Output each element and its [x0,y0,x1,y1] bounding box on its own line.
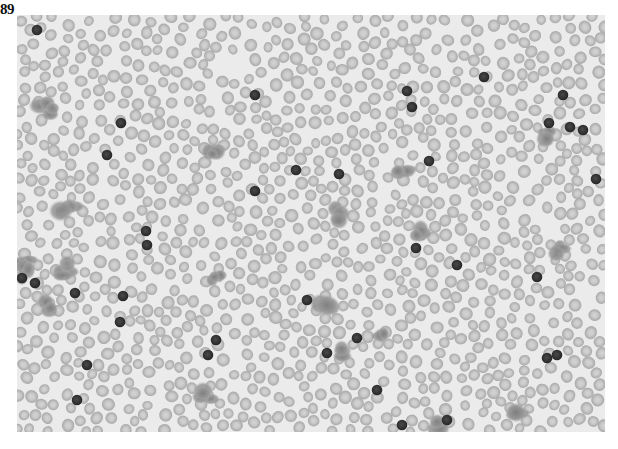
red-blood-cell [227,146,241,160]
red-blood-cell [51,318,65,332]
red-blood-cell [200,304,213,317]
red-blood-cell [430,358,443,370]
red-blood-cell [107,257,122,273]
red-blood-cell [530,366,545,381]
red-blood-cell [253,371,265,384]
red-blood-cell [364,205,379,220]
red-blood-cell [110,382,126,398]
red-blood-cell [359,102,371,115]
red-blood-cell [361,143,375,157]
red-blood-cell [339,185,351,196]
figure-number-label: 89 [0,1,14,17]
red-blood-cell [226,43,239,57]
red-blood-cell [366,180,379,194]
red-blood-cell [231,170,244,182]
red-blood-cell [571,107,586,121]
red-blood-cell [267,372,280,386]
red-blood-cell [242,36,260,54]
red-blood-cell [560,74,578,92]
red-blood-cell [505,339,517,350]
red-blood-cell [135,270,148,283]
red-blood-cell [80,87,92,100]
red-blood-cell [186,367,201,382]
dark-staining-cell [372,385,383,396]
red-blood-cell [261,122,273,134]
red-blood-cell [413,370,428,386]
red-blood-cell [187,294,200,309]
red-blood-cell [456,150,471,164]
red-blood-cell [491,190,505,203]
red-blood-cell [587,416,599,428]
red-blood-cell [59,363,75,378]
red-blood-cell [37,382,51,396]
red-blood-cell [161,215,172,227]
red-blood-cell [269,77,283,92]
red-blood-cell [117,166,130,180]
dark-staining-cell [142,240,153,251]
red-blood-cell [430,321,444,334]
red-blood-cell [328,411,345,428]
red-blood-cell [17,389,25,401]
blood-smear-micrograph [17,15,605,432]
red-blood-cell [262,21,272,32]
red-blood-cell [36,319,50,335]
red-blood-cell [545,414,559,429]
red-blood-cell [484,295,496,306]
red-blood-cell [349,197,362,211]
dark-staining-cell [115,317,126,328]
red-blood-cell [248,52,262,67]
red-blood-cell [127,387,141,400]
red-blood-cell [445,113,458,126]
red-blood-cell [194,199,211,216]
red-blood-cell [435,114,446,125]
red-blood-cell [74,99,86,112]
red-blood-cell [576,233,589,245]
red-blood-cell [179,117,193,130]
red-blood-cell [318,407,331,421]
red-blood-cell [20,218,34,232]
red-blood-cell [460,15,476,28]
red-blood-cell [105,235,121,251]
red-blood-cell [286,294,297,307]
red-blood-cell [27,38,41,51]
red-blood-cell [591,222,605,239]
red-blood-cell [360,305,375,319]
dark-staining-cell [70,288,81,299]
red-blood-cell [325,146,339,158]
red-blood-cell [90,54,104,68]
red-blood-cell [134,141,150,157]
red-blood-cell [440,33,456,48]
red-blood-cell [303,324,317,336]
red-blood-cell [243,223,257,236]
red-blood-cell [57,90,73,106]
red-blood-cell [333,267,349,284]
red-blood-cell [296,261,307,273]
dark-staining-cell [30,278,41,289]
red-blood-cell [425,208,438,222]
red-blood-cell [534,381,551,398]
red-blood-cell [245,17,259,31]
red-blood-cell [78,321,91,335]
red-blood-cell [406,287,420,300]
platelet-clump [195,386,212,400]
red-blood-cell [556,191,567,203]
red-blood-cell [110,328,121,340]
red-blood-cell [331,157,341,168]
red-blood-cell [460,83,474,97]
red-blood-cell [295,177,308,190]
red-blood-cell [370,108,381,119]
red-blood-cell [163,358,177,372]
red-blood-cell [325,236,341,252]
red-blood-cell [240,312,255,327]
red-blood-cell [149,345,161,356]
dark-staining-cell [407,102,418,113]
red-blood-cell [357,39,371,53]
red-blood-cell [433,346,448,360]
red-blood-cell [482,422,498,432]
red-blood-cell [37,156,53,172]
red-blood-cell [519,365,530,376]
platelet-clump [539,131,555,148]
red-blood-cell [296,335,310,350]
red-blood-cell [447,351,463,367]
red-blood-cell [118,40,131,53]
